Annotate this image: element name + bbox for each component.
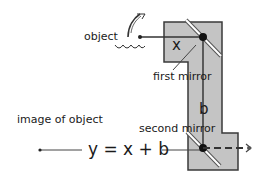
image-dot: [38, 148, 41, 151]
first-mirror-label: first mirror: [153, 71, 212, 82]
object-label: object: [84, 31, 118, 42]
first-mirror-dot: [199, 33, 207, 41]
water-wave-icon: [115, 45, 145, 48]
image-of-object-label: image of object: [17, 114, 103, 125]
second-mirror-label: second mirror: [139, 123, 215, 134]
b-variable-label: b: [199, 102, 209, 117]
object-dot: [138, 35, 142, 39]
feather-icon: [128, 14, 145, 37]
x-variable-label: x: [172, 38, 181, 53]
equation-label: y = x + b: [88, 141, 169, 158]
eye-icon: [246, 144, 251, 152]
